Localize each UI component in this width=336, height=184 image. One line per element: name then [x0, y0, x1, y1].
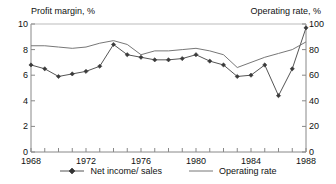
legend-line-icon [188, 166, 214, 176]
legend-item-operating-rate: Operating rate [188, 166, 277, 176]
series-layer [29, 26, 308, 98]
legend-item-net-income: Net income/ sales [59, 166, 162, 176]
legend-marker-line-icon [59, 166, 85, 176]
plot-area [0, 0, 336, 184]
tick-marks [31, 24, 306, 152]
legend-label-net-income: Net income/ sales [90, 166, 162, 176]
legend-label-operating-rate: Operating rate [219, 166, 277, 176]
chart-legend: Net income/ sales Operating rate [0, 166, 336, 176]
chart-container: Profit margin, % Operating rate, % 02468… [0, 0, 336, 184]
axis-lines [31, 24, 306, 152]
